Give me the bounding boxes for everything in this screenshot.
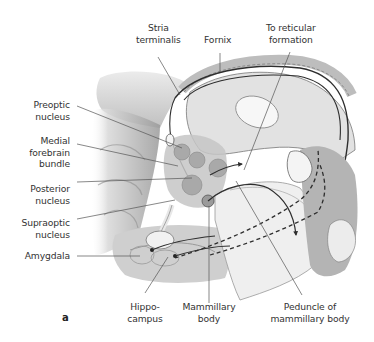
label-preoptic-nucleus: Preoptic nucleus [30, 99, 70, 122]
label-fornix: Fornix [204, 34, 231, 46]
label-mammillary-body: Mammillary body [178, 301, 240, 324]
label-stria-terminalis: Stria terminalis [136, 22, 181, 45]
panel-letter: a [62, 312, 69, 323]
label-supraoptic-nucleus: Supraoptic nucleus [14, 217, 70, 240]
brain-illustration [0, 0, 374, 342]
label-medial-forebrain-bundle: Medial forebrain bundle [20, 135, 70, 170]
label-posterior-nucleus: Posterior nucleus [20, 183, 70, 206]
label-peduncle-of-mammillary-body: Peduncle of mammillary body [265, 301, 355, 324]
label-hippocampus: Hippo- campus [117, 301, 173, 324]
anatomical-figure: Stria terminalis Fornix To reticular for… [0, 0, 374, 342]
label-to-reticular-formation: To reticular formation [266, 22, 316, 45]
preoptic-nucleus [174, 144, 190, 160]
brainstem [215, 182, 316, 300]
label-amygdala: Amygdala [14, 250, 70, 262]
